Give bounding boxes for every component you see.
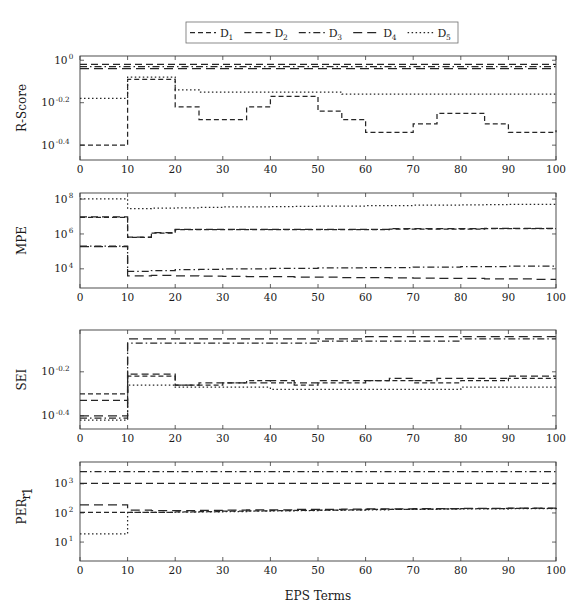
x-axis-title: EPS Terms: [285, 589, 351, 603]
y-ticklabel-base: 10: [54, 193, 67, 205]
x-ticklabel: 100: [546, 291, 566, 303]
legend-label-sub-4: 4: [392, 33, 397, 42]
legend-label-sub-1: 1: [229, 33, 234, 42]
x-ticklabel: 90: [502, 291, 515, 303]
y-ticklabel-base: 10: [54, 54, 67, 66]
x-ticklabel: 100: [546, 163, 566, 175]
x-ticklabel: 100: [546, 432, 566, 444]
y-ticklabel-base: 10: [54, 536, 67, 548]
y-ticklabel-base: 10: [54, 477, 67, 489]
y-ticklabel: 106: [54, 226, 73, 240]
x-ticklabel: 20: [169, 291, 182, 303]
x-ticklabel: 40: [264, 564, 277, 576]
legend: D1D2D3D4D5: [186, 22, 458, 43]
y-ticklabel-base: 10: [54, 507, 67, 519]
x-ticklabel: 50: [311, 432, 324, 444]
y-ticklabel-exp: 4: [69, 261, 74, 270]
x-ticklabel: 20: [169, 432, 182, 444]
y-ticklabel: 10-0.4: [41, 408, 70, 422]
y-ticklabel: 10-0.4: [41, 137, 70, 151]
figure-root: 010203040506070809010010010-0.210-0.4R-S…: [0, 0, 568, 610]
y-ticklabel-exp: 6: [69, 226, 74, 235]
legend-label-sub-3: 3: [337, 33, 342, 42]
y-ticklabel: 100: [54, 52, 73, 66]
y-ticklabel: 102: [54, 505, 73, 519]
x-ticklabel: 20: [169, 564, 182, 576]
x-ticklabel: 60: [359, 163, 372, 175]
x-ticklabel: 90: [502, 163, 515, 175]
y-ticklabel: 10-0.2: [41, 95, 69, 109]
x-ticklabel: 70: [407, 163, 420, 175]
x-ticklabel: 0: [77, 163, 84, 175]
x-ticklabel: 40: [264, 291, 277, 303]
y-ticklabel-exp: -0.4: [56, 408, 70, 417]
x-ticklabel: 90: [502, 564, 515, 576]
legend-label-sub-5: 5: [446, 33, 451, 42]
x-ticklabel: 50: [311, 564, 324, 576]
y-axis-title-1: R-Score: [15, 84, 29, 132]
y-ticklabel-exp: -0.2: [56, 364, 70, 373]
y-ticklabel: 101: [54, 534, 73, 548]
x-ticklabel: 40: [264, 163, 277, 175]
y-ticklabel-exp: 8: [69, 191, 74, 200]
x-ticklabel: 10: [121, 291, 134, 303]
x-ticklabel: 70: [407, 564, 420, 576]
y-ticklabel-base: 10: [54, 262, 67, 274]
x-ticklabel: 20: [169, 163, 182, 175]
y-axis-title-sub2: 1: [21, 487, 35, 495]
x-ticklabel: 60: [359, 432, 372, 444]
panel-3: 010203040506070809010010-0.210-0.4SEI: [15, 330, 566, 444]
panel-4: 0102030405060708090100103102101PERr1: [15, 462, 566, 576]
x-ticklabel: 30: [216, 163, 229, 175]
y-ticklabel-base: 10: [41, 96, 54, 108]
y-ticklabel-exp: 1: [69, 534, 74, 543]
legend-label-sub-2: 2: [283, 33, 288, 42]
y-ticklabel-base: 10: [54, 228, 67, 240]
x-ticklabel: 80: [454, 163, 467, 175]
x-ticklabel: 70: [407, 291, 420, 303]
x-ticklabel: 30: [216, 432, 229, 444]
x-ticklabel: 90: [502, 432, 515, 444]
y-ticklabel-exp: -0.2: [56, 95, 70, 104]
x-ticklabel: 0: [77, 432, 84, 444]
y-ticklabel-base: 10: [41, 409, 54, 421]
x-ticklabel: 10: [121, 163, 134, 175]
y-ticklabel-exp: 2: [69, 505, 74, 514]
panel-1: 010203040506070809010010010-0.210-0.4R-S…: [15, 52, 566, 175]
x-ticklabel: 30: [216, 291, 229, 303]
plot-frame-2: [80, 193, 556, 288]
x-ticklabel: 50: [311, 163, 324, 175]
x-ticklabel: 60: [359, 291, 372, 303]
y-axis-title-text: PER: [15, 498, 29, 525]
panel-2: 0102030405060708090100108106104MPE: [15, 191, 566, 303]
y-axis-title-4: PERr1: [15, 487, 35, 524]
x-ticklabel: 30: [216, 564, 229, 576]
y-axis-title-text: R-Score: [15, 84, 29, 132]
y-axis-title-2: MPE: [15, 226, 29, 255]
multi-panel-log-chart: 010203040506070809010010010-0.210-0.4R-S…: [0, 0, 568, 610]
y-ticklabel-base: 10: [41, 365, 54, 377]
x-ticklabel: 10: [121, 564, 134, 576]
x-ticklabel: 80: [454, 564, 467, 576]
y-ticklabel-exp: -0.4: [56, 137, 70, 146]
x-ticklabel: 80: [454, 291, 467, 303]
x-ticklabel: 60: [359, 564, 372, 576]
y-axis-title-text: SEI: [15, 368, 29, 390]
x-ticklabel: 10: [121, 432, 134, 444]
y-axis-title-text: MPE: [15, 226, 29, 255]
y-ticklabel: 108: [54, 191, 73, 205]
plot-frame-4: [80, 462, 556, 561]
plot-frame-3: [80, 330, 556, 429]
x-ticklabel: 0: [77, 291, 84, 303]
x-ticklabel: 100: [546, 564, 566, 576]
x-ticklabel: 0: [77, 564, 84, 576]
y-ticklabel-exp: 0: [69, 52, 74, 61]
x-ticklabel: 50: [311, 291, 324, 303]
y-ticklabel-base: 10: [41, 139, 54, 151]
y-ticklabel: 104: [54, 261, 73, 275]
x-ticklabel: 70: [407, 432, 420, 444]
y-ticklabel: 10-0.2: [41, 364, 69, 378]
y-axis-title-3: SEI: [15, 368, 29, 390]
x-ticklabel: 80: [454, 432, 467, 444]
y-ticklabel-exp: 3: [69, 476, 74, 485]
